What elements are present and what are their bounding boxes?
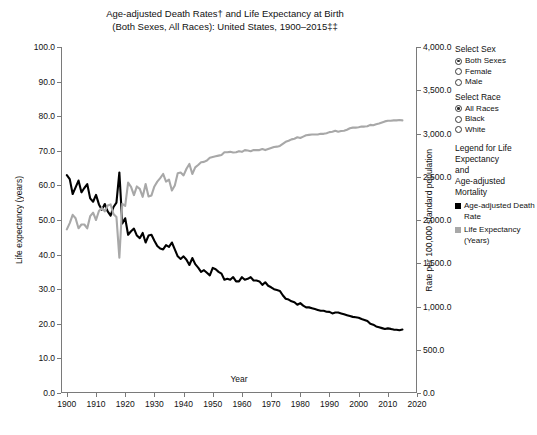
radio-unselected-icon[interactable] [455,79,462,86]
x-tick-label: 1980 [291,399,310,409]
chart-title-line-2: (Both Sexes, All Races): United States, … [0,21,450,34]
x-tick-label: 1970 [262,399,281,409]
y-tick-label-left: 0.0 [43,388,55,398]
legend-heading: Legend for Life Expectancy and Age-adjus… [455,143,535,198]
x-tick-label: 1930 [145,399,164,409]
y-tick-right [417,220,421,221]
series-line [67,172,403,330]
y-tick-left [57,393,61,394]
x-tick [67,393,68,397]
x-tick-label: 1990 [320,399,339,409]
y-tick-label-left: 100.0 [34,42,55,52]
y-tick-label-left: 30.0 [38,284,55,294]
y-tick-label-left: 50.0 [38,215,55,225]
x-tick [125,393,126,397]
x-tick-label: 1900 [57,399,76,409]
legend-item-label: Life Expectancy (Years) [464,225,535,246]
radio-option-label: Both Sexes [465,56,506,67]
legend-items: Age-adjusted Death RateLife Expectancy (… [455,201,535,246]
y-tick-right [417,350,421,351]
x-tick-label: 2000 [349,399,368,409]
y-tick-label-right: 4,000.0 [423,42,451,52]
y-tick-label-right: 3,500.0 [423,85,451,95]
legend-swatch [455,227,461,233]
radio-option-black[interactable]: Black [455,114,535,125]
x-tick [184,393,185,397]
y-tick-label-right: 500.0 [423,345,444,355]
y-tick-label-left: 20.0 [38,319,55,329]
select-race-heading: Select Race [455,92,535,103]
x-tick-label: 1910 [87,399,106,409]
y-tick-label-left: 90.0 [38,77,55,87]
x-tick [329,393,330,397]
series-lines [61,47,417,393]
y-tick-right [417,134,421,135]
y-tick-label-right: 1,000.0 [423,302,451,312]
x-tick [388,393,389,397]
legend-swatch [455,203,461,209]
controls-panel: Select Sex Both SexesFemaleMale Select R… [455,44,535,246]
radio-option-label: Male [465,77,482,88]
y-tick-label-right: 2,500.0 [423,172,451,182]
select-race-radio-group[interactable]: All RacesBlackWhite [455,104,535,136]
radio-unselected-icon[interactable] [455,68,462,75]
radio-option-label: Black [465,114,485,125]
y-tick-right [417,263,421,264]
y-tick-label-left: 60.0 [38,180,55,190]
y-tick-label-left: 80.0 [38,111,55,121]
legend-item-label: Age-adjusted Death Rate [464,201,535,222]
y-tick-right [417,307,421,308]
x-tick [213,393,214,397]
x-tick [96,393,97,397]
select-sex-heading: Select Sex [455,44,535,55]
radio-option-male[interactable]: Male [455,77,535,88]
radio-option-label: Female [465,67,492,78]
radio-selected-icon[interactable] [455,58,462,65]
x-tick-label: 1940 [174,399,193,409]
x-tick [271,393,272,397]
radio-option-all-races[interactable]: All Races [455,104,535,115]
radio-unselected-icon[interactable] [455,126,462,133]
x-tick [300,393,301,397]
y-tick-label-right: 0.0 [423,388,435,398]
x-tick [154,393,155,397]
x-tick-label: 1960 [232,399,251,409]
x-tick [417,393,418,397]
radio-option-label: White [465,125,485,136]
legend-item: Age-adjusted Death Rate [455,201,535,222]
x-tick-label: 1950 [203,399,222,409]
x-tick-label: 2020 [408,399,427,409]
y-tick-label-left: 70.0 [38,146,55,156]
radio-selected-icon[interactable] [455,105,462,112]
y-tick-right [417,90,421,91]
x-tick [242,393,243,397]
x-tick [359,393,360,397]
radio-unselected-icon[interactable] [455,116,462,123]
y-tick-right [417,47,421,48]
radio-option-white[interactable]: White [455,125,535,136]
y-tick-label-right: 2,000.0 [423,215,451,225]
y-tick-label-left: 40.0 [38,250,55,260]
chart-title: Age-adjusted Death Rates† and Life Expec… [0,8,450,33]
y-axis-left-title: Life expectancy (years) [14,47,24,393]
x-tick-label: 2010 [378,399,397,409]
x-tick-label: 1920 [116,399,135,409]
plot-area: 0.010.020.030.040.050.060.070.080.090.01… [61,47,417,393]
y-tick-label-right: 3,000.0 [423,129,451,139]
select-sex-radio-group[interactable]: Both SexesFemaleMale [455,56,535,88]
y-tick-label-right: 1,500.0 [423,258,451,268]
radio-option-both-sexes[interactable]: Both Sexes [455,56,535,67]
radio-option-female[interactable]: Female [455,67,535,78]
radio-option-label: All Races [465,104,499,115]
chart-title-line-1: Age-adjusted Death Rates† and Life Expec… [0,8,450,21]
y-tick-label-left: 10.0 [38,353,55,363]
legend-item: Life Expectancy (Years) [455,225,535,246]
y-tick-right [417,177,421,178]
